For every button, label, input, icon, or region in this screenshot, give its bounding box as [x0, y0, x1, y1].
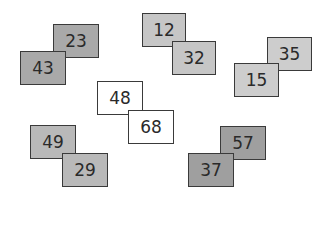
card-29: 29: [62, 153, 108, 187]
card-68: 68: [128, 110, 174, 144]
card-37: 37: [188, 153, 234, 187]
card-43: 43: [20, 51, 66, 85]
card-15: 15: [234, 63, 279, 97]
card-32: 32: [172, 41, 216, 75]
